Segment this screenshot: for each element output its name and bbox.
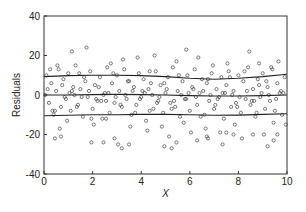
data-point [264, 107, 267, 110]
data-point [276, 82, 279, 85]
y-tick-label: 40 [29, 11, 41, 22]
data-point [113, 137, 116, 140]
data-point [215, 88, 218, 91]
data-point [163, 82, 166, 85]
data-point [131, 89, 134, 92]
x-tick-label: 0 [41, 176, 47, 187]
data-point [62, 78, 65, 81]
data-point [164, 91, 167, 94]
data-point [67, 72, 70, 75]
data-point [266, 86, 269, 89]
data-point [174, 105, 177, 108]
data-point [189, 131, 192, 134]
data-point [227, 70, 230, 73]
data-point [205, 82, 208, 85]
data-point [188, 109, 191, 112]
data-point [78, 72, 81, 75]
data-point [272, 139, 275, 142]
data-point [236, 105, 239, 108]
data-point [101, 117, 104, 120]
data-point [46, 88, 49, 91]
data-point [276, 133, 279, 136]
data-point [47, 101, 50, 104]
data-point [168, 135, 171, 138]
data-point [90, 141, 93, 144]
data-point [182, 121, 185, 124]
data-point [172, 99, 175, 102]
data-point [136, 56, 139, 59]
data-point [265, 80, 268, 83]
data-point [135, 103, 138, 106]
y-tick-label: 20 [29, 50, 41, 61]
data-point [197, 56, 200, 59]
data-point [160, 125, 163, 128]
data-point [112, 72, 115, 75]
data-point [100, 99, 103, 102]
data-point [148, 70, 151, 73]
data-point [89, 70, 92, 73]
data-point [50, 82, 53, 85]
x-tick-label: 4 [138, 176, 144, 187]
data-point [93, 84, 96, 87]
y-tick-label: -40 [26, 169, 41, 180]
data-point [170, 147, 173, 150]
data-point [80, 95, 83, 98]
y-axis-title: Residuals [11, 73, 22, 117]
data-point [137, 72, 140, 75]
data-point [152, 107, 155, 110]
data-point [104, 99, 107, 102]
data-point [153, 54, 156, 57]
data-point [169, 101, 172, 104]
data-point [163, 145, 166, 148]
data-point [129, 125, 132, 128]
data-point [83, 76, 86, 79]
data-point [282, 91, 285, 94]
data-point [69, 109, 72, 112]
data-point [56, 64, 59, 67]
data-point [120, 147, 123, 150]
data-point [121, 58, 124, 61]
data-point [106, 66, 109, 69]
data-point [146, 129, 149, 132]
data-point [66, 119, 69, 122]
x-tick-label: 8 [236, 176, 242, 187]
data-point [225, 131, 228, 134]
data-point [262, 133, 265, 136]
data-point [185, 48, 188, 51]
data-point [110, 82, 113, 85]
data-point [186, 74, 189, 77]
y-tick-label: 0 [34, 90, 40, 101]
data-point [211, 64, 214, 67]
upper-band-line [44, 74, 287, 79]
data-point [74, 64, 77, 67]
data-point [97, 86, 100, 89]
data-point [113, 101, 116, 104]
data-point [81, 115, 84, 118]
data-point [142, 78, 145, 81]
data-point [158, 95, 161, 98]
data-point [196, 103, 199, 106]
data-point [181, 80, 184, 83]
data-point [266, 145, 269, 148]
data-point [272, 121, 275, 124]
data-point [175, 141, 178, 144]
x-tick-label: 10 [281, 176, 293, 187]
data-point [245, 89, 248, 92]
data-point [114, 95, 117, 98]
data-point [84, 80, 87, 83]
data-point [86, 95, 89, 98]
data-point [210, 72, 213, 75]
data-point [55, 89, 58, 92]
data-point [53, 137, 56, 140]
data-point [145, 119, 148, 122]
data-point [251, 133, 254, 136]
data-point [70, 89, 73, 92]
data-point [187, 91, 190, 94]
data-point [117, 143, 120, 146]
data-point [175, 60, 178, 63]
data-point [261, 72, 264, 75]
data-point [251, 88, 254, 91]
data-point [239, 111, 242, 114]
data-point [226, 62, 229, 65]
data-point [234, 101, 237, 104]
